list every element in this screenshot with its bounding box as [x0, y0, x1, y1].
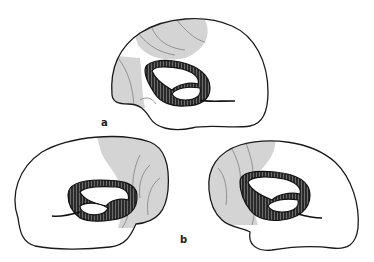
panel-a-hemisphere	[105, 18, 268, 130]
panel-label-a: a	[101, 117, 108, 128]
panel-label-b: b	[180, 234, 187, 245]
panel-b-left-hemisphere	[15, 130, 175, 249]
panel-b-right-hemisphere	[200, 135, 358, 250]
brain-diagram	[0, 0, 374, 262]
